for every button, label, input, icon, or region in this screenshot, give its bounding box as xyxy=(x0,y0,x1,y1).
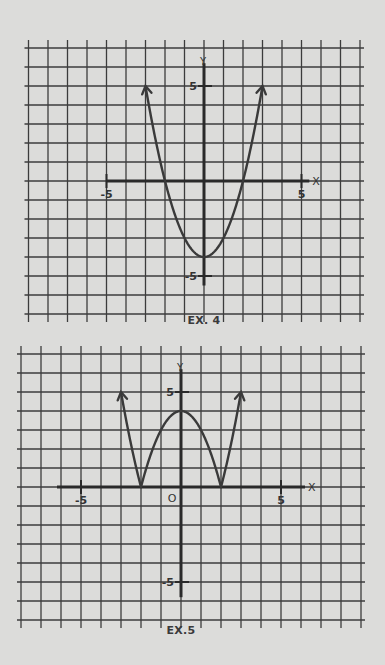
x-tick-label: 5 xyxy=(298,188,306,201)
x-tick-label: 5 xyxy=(277,494,285,507)
y-tick-label: -5 xyxy=(185,270,197,283)
textbook-page: XY-555-5XY-555-5O EX. 4 EX.5 xyxy=(0,0,385,665)
y-axis-label: Y xyxy=(176,362,184,373)
graphs-canvas: XY-555-5XY-555-5O xyxy=(0,0,385,665)
y-tick-label: -5 xyxy=(162,576,174,589)
x-tick-label: -5 xyxy=(100,188,112,201)
caption-ex5: EX.5 xyxy=(166,624,195,637)
y-axis-label: Y xyxy=(199,56,207,67)
x-axis-label: X xyxy=(312,175,320,188)
y-tick-label: 5 xyxy=(189,80,197,93)
x-tick-label: -5 xyxy=(75,494,87,507)
origin-label: O xyxy=(168,492,177,505)
y-tick-label: 5 xyxy=(166,386,174,399)
caption-ex4: EX. 4 xyxy=(187,314,220,327)
x-axis-label: X xyxy=(308,481,316,494)
